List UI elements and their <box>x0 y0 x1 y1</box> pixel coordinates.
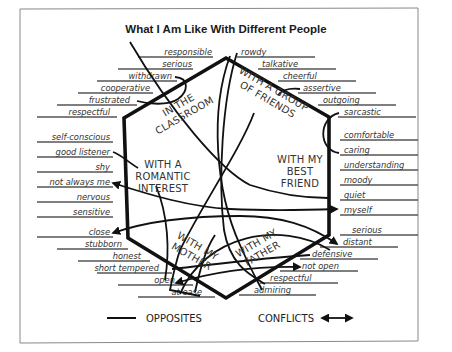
attr-sarcastic: sarcastic <box>344 107 381 117</box>
attr-cooperative: cooperative <box>101 83 150 93</box>
attr-moody: moody <box>344 175 373 185</box>
attr-honest: honest <box>113 251 142 261</box>
region-best-friend: WITH MY BEST FRIEND <box>277 154 323 189</box>
attr-distant: distant <box>343 237 372 247</box>
svg-text:BEST: BEST <box>287 166 314 177</box>
attr-good-listener: good listener <box>56 147 111 157</box>
attr-rowdy: rowdy <box>241 47 267 57</box>
attr-sensitive: sensitive <box>73 207 110 217</box>
region-classroom: IN THE CLASSROOM <box>147 84 215 137</box>
attr-responsible: responsible <box>164 47 212 57</box>
svg-text:FRIEND: FRIEND <box>281 178 319 189</box>
attr-quiet: quiet <box>344 190 366 200</box>
attr-assertive: assertive <box>303 83 341 93</box>
svg-text:INTEREST: INTEREST <box>138 183 189 194</box>
attr-understanding: understanding <box>344 160 404 170</box>
svg-text:ROMANTIC: ROMANTIC <box>135 171 190 182</box>
attr-cheerful: cheerful <box>283 71 318 81</box>
attr-respectful-left: respectful <box>68 107 110 117</box>
legend-opposites: OPPOSITES <box>146 313 202 324</box>
attr-caring: caring <box>344 145 370 155</box>
attr-shy: shy <box>96 162 111 172</box>
attr-nervous: nervous <box>77 192 111 202</box>
diagram-title: What I Am Like With Different People <box>125 23 326 35</box>
attr-respectful-right: respectful <box>270 273 312 283</box>
attr-serious-right: serious <box>352 225 382 235</box>
attr-stubborn: stubborn <box>85 239 122 249</box>
region-father: WITH MY FATHER <box>234 226 286 269</box>
attr-outgoing: outgoing <box>323 95 360 105</box>
legend-conflicts: CONFLICTS <box>258 313 314 324</box>
self-concept-diagram: What I Am Like With Different People <box>0 0 452 352</box>
svg-text:WITH MY: WITH MY <box>277 154 323 165</box>
attr-serious-left: serious <box>162 59 192 69</box>
attr-close: close <box>89 227 110 237</box>
attr-not-always-me: not always me <box>49 177 110 187</box>
attr-myself: myself <box>344 205 373 215</box>
attr-short-tempered: short tempered <box>94 263 159 273</box>
svg-text:WITH A: WITH A <box>144 159 182 170</box>
attr-not-open: not open <box>302 261 339 271</box>
attr-self-conscious: self-conscious <box>52 132 111 142</box>
attr-frustrated: frustrated <box>89 95 131 105</box>
legend: OPPOSITES CONFLICTS <box>107 313 352 324</box>
region-romantic: WITH A ROMANTIC INTEREST <box>135 159 190 194</box>
attr-defensive: defensive <box>312 249 352 259</box>
attr-talkative: talkative <box>262 59 298 69</box>
attr-comfortable: comfortable <box>344 130 394 140</box>
